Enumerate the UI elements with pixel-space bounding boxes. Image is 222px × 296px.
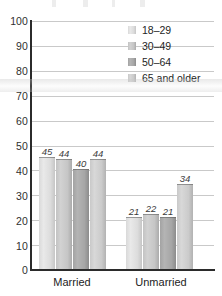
bar-label-married-30-49: 44: [56, 148, 72, 159]
bar-chart: 100 90 80 70 60 50 40 30 20 10 0 45 44 4…: [0, 0, 222, 296]
bar-label-married-65-older: 44: [90, 148, 106, 159]
cropped-title-artifact: [44, 0, 174, 7]
bar-unmarried-65-older: [177, 184, 193, 270]
y-tick-100: 100: [2, 15, 28, 27]
legend: 18–29 30–49 50–64 65 and older: [128, 25, 200, 89]
y-tick-80: 80: [2, 65, 28, 77]
y-axis-tick-labels: 100 90 80 70 60 50 40 30 20 10 0: [0, 0, 28, 296]
bar-label-married-50-64: 40: [73, 158, 89, 169]
y-tick-60: 60: [2, 115, 28, 127]
bar-label-unmarried-18-29: 21: [126, 206, 142, 217]
legend-item-18-29: 18–29: [128, 25, 200, 36]
legend-swatch-icon-65-older: [128, 74, 136, 82]
bar-married-30-49: [56, 159, 72, 270]
x-category-married: Married: [22, 276, 122, 288]
legend-item-65-older: 65 and older: [128, 73, 200, 84]
gridline-50: [31, 146, 214, 147]
y-tick-0: 0: [2, 264, 28, 276]
legend-label-30-49: 30–49: [142, 41, 171, 52]
bar-married-18-29: [39, 157, 55, 270]
bar-unmarried-30-49: [143, 214, 159, 270]
legend-label-65-older: 65 and older: [142, 73, 200, 84]
bar-unmarried-18-29: [126, 217, 142, 270]
bar-married-65-older: [90, 159, 106, 270]
legend-swatch-icon-50-64: [128, 58, 136, 66]
gridline-100: [31, 21, 214, 22]
gridline-60: [31, 121, 214, 122]
bar-label-unmarried-50-64: 21: [160, 206, 176, 217]
legend-label-18-29: 18–29: [142, 25, 171, 36]
legend-item-30-49: 30–49: [128, 41, 200, 52]
bar-married-50-64: [73, 169, 89, 270]
y-tick-50: 50: [2, 140, 28, 152]
bar-label-unmarried-30-49: 22: [143, 203, 159, 214]
legend-swatch-icon-18-29: [128, 26, 136, 34]
legend-item-50-64: 50–64: [128, 57, 200, 68]
x-axis-line: [30, 269, 215, 271]
x-category-unmarried: Unmarried: [111, 276, 211, 288]
legend-label-50-64: 50–64: [142, 57, 171, 68]
y-tick-90: 90: [2, 40, 28, 52]
y-tick-20: 20: [2, 215, 28, 227]
bar-unmarried-50-64: [160, 217, 176, 270]
bar-label-married-18-29: 45: [39, 146, 55, 157]
y-tick-10: 10: [2, 240, 28, 252]
y-tick-70: 70: [2, 90, 28, 102]
y-tick-40: 40: [2, 165, 28, 177]
y-tick-30: 30: [2, 190, 28, 202]
bar-label-unmarried-65-older: 34: [177, 173, 193, 184]
y-axis-line: [30, 20, 32, 271]
legend-swatch-icon-30-49: [128, 42, 136, 50]
gridline-70: [31, 96, 214, 97]
